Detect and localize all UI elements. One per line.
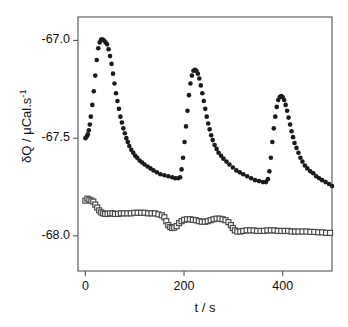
data-point	[201, 99, 206, 104]
x-tick-label: 200	[159, 279, 209, 293]
data-point	[245, 174, 250, 179]
y-axis-label-text: δQ / μCal.s-1	[19, 89, 34, 163]
x-axis-label: t / s	[0, 300, 348, 315]
data-point	[120, 120, 125, 125]
data-point	[274, 105, 279, 110]
data-point	[88, 122, 93, 127]
data-point	[209, 133, 214, 138]
data-point	[196, 71, 201, 76]
data-point	[203, 107, 208, 112]
data-point	[108, 54, 113, 59]
data-point	[121, 126, 126, 131]
data-point	[197, 76, 202, 81]
data-point	[241, 172, 246, 177]
data-point	[249, 176, 254, 181]
series-lower-trace-open-squares	[83, 196, 333, 235]
data-point	[285, 108, 290, 113]
data-point	[105, 42, 110, 47]
data-point	[257, 179, 262, 184]
data-point	[91, 89, 96, 94]
data-point	[112, 81, 117, 86]
data-point	[185, 108, 190, 113]
data-point	[272, 126, 277, 131]
y-tick-label: -67.0	[18, 32, 70, 46]
data-point	[266, 177, 271, 182]
y-tick-label: -68.0	[18, 228, 70, 242]
data-point	[87, 128, 92, 133]
data-point	[94, 58, 99, 63]
y-tick-label: -67.5	[18, 130, 70, 144]
data-point	[93, 73, 98, 78]
data-point	[267, 169, 272, 174]
data-point	[96, 46, 101, 51]
data-point	[204, 114, 209, 119]
data-point	[109, 62, 114, 67]
data-point	[273, 114, 278, 119]
data-point	[179, 167, 184, 172]
data-point	[124, 136, 129, 141]
data-point	[270, 140, 275, 145]
data-point	[166, 174, 171, 179]
y-axis-label: δQ / μCal.s-1	[18, 56, 34, 196]
data-point	[328, 230, 333, 235]
data-point	[114, 91, 119, 96]
data-point	[123, 131, 128, 136]
data-point	[282, 98, 287, 103]
data-point	[106, 47, 111, 52]
data-point	[111, 71, 116, 76]
data-point	[126, 140, 131, 145]
data-point	[283, 103, 288, 108]
data-point	[127, 144, 132, 149]
data-point	[89, 114, 94, 119]
data-point	[289, 129, 294, 134]
data-point	[115, 99, 120, 104]
data-point	[298, 155, 303, 160]
data-point	[296, 150, 301, 155]
data-point	[181, 155, 186, 160]
data-point	[117, 107, 122, 112]
chart-plot-area	[0, 0, 348, 327]
x-axis-label-text: t / s	[195, 300, 216, 315]
data-point	[330, 184, 335, 189]
data-point	[190, 73, 195, 78]
data-point	[187, 93, 192, 98]
data-point	[253, 178, 258, 183]
data-point	[90, 103, 95, 108]
series-upper-trace-filled-circles	[83, 37, 334, 188]
data-point	[199, 83, 204, 88]
data-point	[178, 175, 183, 180]
figure-container: δQ / μCal.s-1 t / s -67.0-67.5-68.002004…	[0, 0, 348, 327]
data-point	[184, 124, 189, 129]
data-point	[210, 138, 215, 143]
x-tick-label: 0	[60, 279, 110, 293]
data-point	[288, 122, 293, 127]
data-point	[158, 172, 163, 177]
data-point	[269, 155, 274, 160]
data-point	[214, 147, 219, 152]
data-point	[206, 121, 211, 126]
data-point	[292, 141, 297, 146]
data-point	[188, 81, 193, 86]
data-point	[291, 135, 296, 140]
x-tick-label: 400	[258, 279, 308, 293]
data-point	[86, 132, 91, 137]
data-point	[212, 143, 217, 148]
data-point	[207, 127, 212, 132]
data-point	[162, 173, 167, 178]
data-point	[118, 114, 123, 119]
data-point	[286, 115, 291, 120]
data-point	[182, 140, 187, 145]
data-point	[300, 159, 305, 164]
data-point	[294, 146, 299, 151]
data-point	[200, 91, 205, 96]
